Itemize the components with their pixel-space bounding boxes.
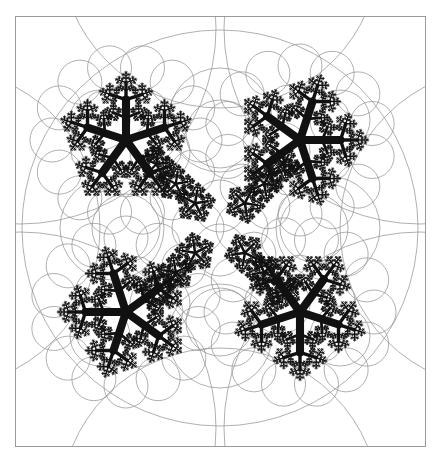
figure-root: Kleinian group limit set with Schottky c… — [0, 0, 444, 460]
fractal-figure-canvas — [0, 0, 444, 460]
